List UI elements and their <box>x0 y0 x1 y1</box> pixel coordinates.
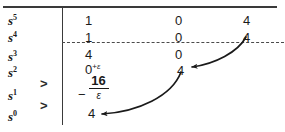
cell-s2-col2: 4 <box>177 64 184 77</box>
row-label-s2: s2 <box>8 66 17 79</box>
column-divider-rule <box>62 7 63 125</box>
fraction: 16 ε <box>89 74 109 101</box>
cell-s0-col1: 4 <box>88 107 95 120</box>
cell-s5-col2: 0 <box>175 14 182 27</box>
cell-s3-col2: 0 <box>175 48 182 61</box>
cell-s5-col3: 4 <box>243 14 250 27</box>
cell-s4-col1: 1 <box>85 31 92 44</box>
dashed-divider-rule <box>62 42 284 43</box>
cell-s4-col3: 4 <box>243 31 250 44</box>
row-label-s5: s5 <box>8 14 17 27</box>
row-label-s0: s0 <box>8 110 17 123</box>
fraction-sign: − <box>78 88 86 101</box>
row-label-s3: s3 <box>8 50 17 63</box>
row-label-s1: s1 <box>8 89 17 102</box>
fraction-denominator: ε <box>96 89 100 101</box>
row-label-s4: s4 <box>8 31 17 44</box>
sign-change-marker-2: > <box>40 99 48 112</box>
cell-s1-col1-fraction: − 16 ε <box>78 74 109 101</box>
cell-s2-col1-sup-epsilon: ε <box>97 62 101 71</box>
top-rule <box>3 6 277 8</box>
routh-array-figure: s5 s4 s3 s2 s1 s0 > > 1 0 4 1 0 4 4 0 0+… <box>0 0 285 132</box>
cell-s3-col1: 4 <box>85 48 92 61</box>
arrow-s2c2-to-s0c1 <box>102 72 181 114</box>
sign-change-marker-1: > <box>40 77 48 90</box>
cell-s4-col2: 0 <box>175 31 182 44</box>
fraction-numerator: 16 <box>89 74 107 88</box>
cell-s5-col1: 1 <box>85 14 92 27</box>
